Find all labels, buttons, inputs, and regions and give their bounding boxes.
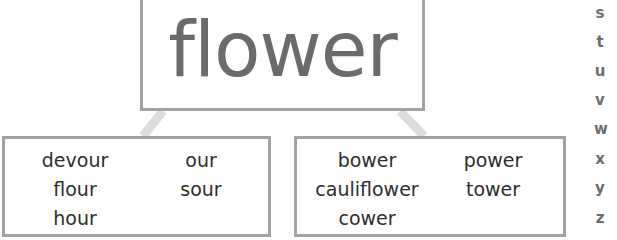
word-item: bower	[338, 151, 397, 170]
alphabet-letter: v	[594, 91, 606, 109]
alphabet-letter: z	[594, 209, 606, 227]
word-item: tower	[466, 180, 520, 199]
word-item: our	[185, 151, 216, 170]
word-group-ower: bower cauliflower cower power tower	[294, 136, 566, 237]
connector-right	[400, 111, 424, 136]
alphabet-letter: x	[594, 150, 606, 168]
root-word: flower	[168, 12, 397, 88]
alphabet-letter: w	[594, 120, 606, 138]
root-word-box: flower	[140, 0, 425, 111]
alphabet-letter: u	[594, 62, 606, 80]
word-item: sour	[180, 180, 221, 199]
alphabet-letter: y	[594, 179, 606, 197]
word-item: hour	[53, 209, 97, 228]
word-item: flour	[53, 180, 96, 199]
alphabet-letter: t	[594, 33, 606, 51]
word-group-our: devour flour hour our sour	[2, 136, 271, 237]
word-item: devour	[42, 151, 108, 170]
connector-left	[143, 111, 163, 136]
word-item: power	[464, 151, 523, 170]
alphabet-letter: s	[594, 4, 606, 22]
word-item: cauliflower	[315, 180, 418, 199]
word-item: cower	[338, 209, 395, 228]
